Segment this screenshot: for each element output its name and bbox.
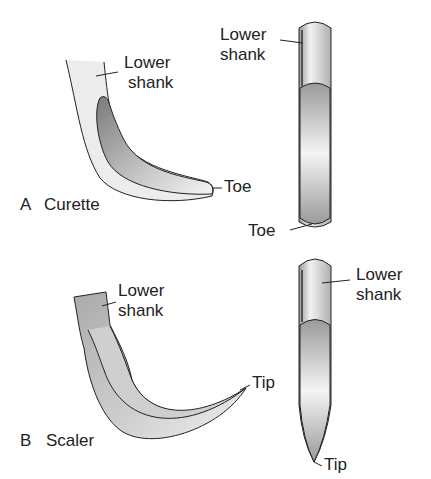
curette-face-toe-label: Toe [248, 222, 275, 240]
scaler-side-lower-shank-label-2: shank [118, 302, 163, 320]
curette-side-lower-shank-label-2: shank [128, 74, 173, 92]
panel-b-letter: B [20, 432, 31, 450]
scaler-face-lower-shank-label-1: Lower [356, 266, 402, 284]
curette-face-lower-shank-label-1: Lower [220, 26, 266, 44]
scaler-face-tip-label: Tip [324, 456, 347, 474]
scaler-side-lower-shank-label-1: Lower [118, 282, 164, 300]
curette-face-view [280, 22, 331, 230]
diagram-graphics [0, 0, 431, 479]
instrument-diagram: Lower shank Toe A Curette Lower shank To… [0, 0, 431, 479]
curette-face-lower-shank-label-2: shank [220, 46, 265, 64]
panel-a-title: Curette [44, 196, 100, 214]
panel-a-letter: A [20, 196, 31, 214]
scaler-face-lower-shank-label-2: shank [356, 286, 401, 304]
scaler-face-view [299, 259, 350, 466]
scaler-side-tip-label: Tip [252, 374, 275, 392]
curette-side-toe-label: Toe [224, 178, 251, 196]
panel-b-title: Scaler [46, 432, 94, 450]
curette-side-lower-shank-label-1: Lower [124, 54, 170, 72]
